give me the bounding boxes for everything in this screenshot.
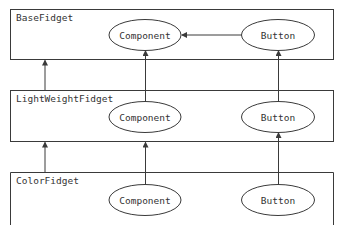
node-color-component: Component [109, 185, 181, 216]
node-lw-button: Button [242, 102, 315, 133]
layer-color-fidget: ColorFidget Component Button [11, 173, 334, 226]
node-label: Button [261, 112, 295, 123]
node-label: Button [261, 195, 295, 206]
node-lw-component: Component [109, 102, 181, 133]
node-base-component: Component [109, 20, 181, 51]
node-label: Button [261, 30, 295, 41]
node-label: Component [119, 195, 170, 206]
node-label: Component [119, 30, 170, 41]
layer-lightweight-fidget: LightWeightFidget Component Button [11, 91, 334, 142]
diagram-canvas: BaseFidget Component Button LightWeightF… [0, 0, 338, 225]
layer-label: BaseFidget [16, 12, 73, 23]
class-diagram: BaseFidget Component Button LightWeightF… [0, 0, 338, 225]
node-label: Component [119, 112, 170, 123]
node-color-button: Button [242, 185, 315, 216]
layer-base-fidget: BaseFidget Component Button [11, 10, 334, 60]
node-base-button: Button [242, 20, 315, 51]
layer-label: ColorFidget [16, 175, 79, 186]
layer-label: LightWeightFidget [16, 93, 113, 104]
